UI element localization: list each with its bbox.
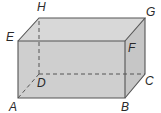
cuboid-diagram: H G E F D C A B (0, 0, 161, 113)
cuboid-svg: H G E F D C A B (0, 0, 161, 113)
label-G: G (146, 5, 155, 19)
label-E: E (6, 30, 15, 44)
label-A: A (8, 100, 17, 113)
label-H: H (37, 0, 46, 14)
label-F: F (128, 41, 136, 55)
label-C: C (145, 74, 154, 88)
label-D: D (37, 76, 46, 90)
front-face (18, 41, 125, 98)
label-B: B (121, 100, 129, 113)
top-face (18, 18, 145, 41)
